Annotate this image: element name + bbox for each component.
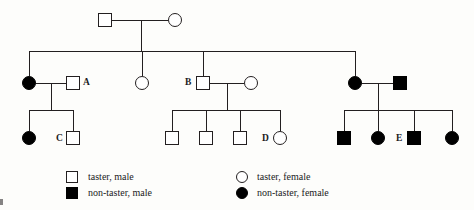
label-a: A xyxy=(83,78,90,88)
legend-circle-open-icon xyxy=(236,171,248,183)
legend-label-taster-male: taster, male xyxy=(88,171,134,183)
sibling-drop-iii-10 xyxy=(452,110,453,131)
sibling-drop-iii-2 xyxy=(73,110,74,131)
legend-square-open-icon xyxy=(66,171,78,183)
sibling-drop-ii-1 xyxy=(29,51,30,76)
label-c: C xyxy=(56,134,63,144)
individual-iii-2-taster-male-c[interactable] xyxy=(66,131,80,145)
individual-iii-10-nontaster-female[interactable] xyxy=(445,131,459,145)
individual-ii-1-nontaster-female[interactable] xyxy=(22,76,36,90)
sibship-line-family-a xyxy=(29,110,73,111)
individual-iii-3-taster-male[interactable] xyxy=(165,131,179,145)
individual-iii-6-taster-female-d[interactable] xyxy=(273,131,287,145)
pedigree-chart: A C B D E taster, male xyxy=(0,0,474,210)
legend-label-non-taster-male: non-taster, male xyxy=(88,187,152,199)
sibling-drop-iii-6 xyxy=(280,110,281,131)
legend-circle-filled-icon xyxy=(236,187,248,199)
sibling-drop-iii-1 xyxy=(29,110,30,131)
sibling-drop-ii-6 xyxy=(355,51,356,76)
sibling-drop-iii-3 xyxy=(172,110,173,131)
individual-iii-8-nontaster-female[interactable] xyxy=(371,131,385,145)
legend-label-taster-female: taster, female xyxy=(257,171,310,183)
individual-ii-6-nontaster-female[interactable] xyxy=(348,76,362,90)
sibling-drop-iii-7 xyxy=(344,110,345,131)
individual-ii-2-taster-male-a[interactable] xyxy=(66,76,80,90)
individual-iii-5-taster-male[interactable] xyxy=(233,131,247,145)
descent-line-family-a xyxy=(51,83,52,110)
individual-ii-3-taster-female[interactable] xyxy=(135,76,149,90)
sibling-drop-iii-4 xyxy=(206,110,207,131)
legend-square-filled-icon xyxy=(66,187,78,199)
sibling-drop-ii-3 xyxy=(142,51,143,76)
descent-line-gen1 xyxy=(141,20,142,51)
legend-label-non-taster-female: non-taster, female xyxy=(257,187,329,199)
individual-ii-7-nontaster-male[interactable] xyxy=(393,76,407,90)
individual-ii-4-taster-male-b[interactable] xyxy=(196,76,210,90)
sibship-line-family-right xyxy=(344,110,452,111)
individual-i-1-taster-male[interactable] xyxy=(98,13,112,27)
label-d: D xyxy=(262,134,269,144)
individual-i-2-taster-female[interactable] xyxy=(168,13,182,27)
sibship-line-family-b xyxy=(172,110,280,111)
mating-line-gen1 xyxy=(112,20,168,21)
individual-iii-7-nontaster-male[interactable] xyxy=(337,131,351,145)
scan-edge-artifact xyxy=(0,199,3,205)
descent-line-family-b xyxy=(227,83,228,110)
sibling-drop-ii-4 xyxy=(203,51,204,76)
legend: taster, male non-taster, male taster, fe… xyxy=(0,0,474,210)
sibling-drop-iii-9 xyxy=(414,110,415,131)
descent-line-family-right xyxy=(378,83,379,110)
sibling-drop-iii-8 xyxy=(378,110,379,131)
individual-iii-9-nontaster-male-e[interactable] xyxy=(407,131,421,145)
label-b: B xyxy=(185,78,191,88)
individual-iii-4-taster-male[interactable] xyxy=(199,131,213,145)
individual-iii-1-nontaster-female[interactable] xyxy=(22,131,36,145)
sibling-drop-iii-5 xyxy=(240,110,241,131)
label-e: E xyxy=(396,134,402,144)
individual-ii-5-taster-female[interactable] xyxy=(244,76,258,90)
sibship-line-gen2 xyxy=(29,51,356,52)
